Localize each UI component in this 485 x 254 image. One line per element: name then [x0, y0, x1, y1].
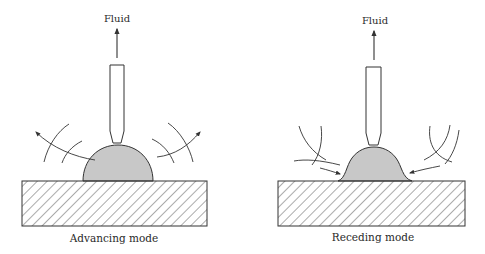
flow-arcs-right [152, 123, 200, 163]
panel-advancing: Fluid Advancing mode [22, 13, 207, 244]
needle-nozzle [110, 65, 124, 143]
fluid-label-left: Fluid [104, 13, 131, 24]
flow-arcs-left [36, 124, 95, 163]
caption-receding: Receding mode [332, 231, 414, 243]
flow-arcs-left [294, 126, 340, 174]
substrate [22, 181, 207, 226]
contact-angle-diagram: Fluid Advancing mode Fluid [0, 0, 485, 254]
fluid-label-right: Fluid [362, 15, 389, 26]
caption-advancing: Advancing mode [69, 232, 159, 244]
flow-arcs-right [410, 125, 459, 173]
droplet [338, 147, 412, 181]
panel-receding: Fluid Receding mode [278, 15, 465, 243]
droplet [83, 145, 153, 181]
substrate [278, 181, 465, 226]
needle-nozzle [366, 67, 381, 145]
